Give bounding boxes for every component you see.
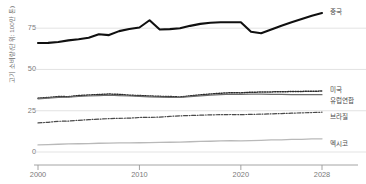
x-tick-label-2020: 2020 (233, 170, 249, 179)
series-line-4 (38, 139, 322, 145)
x-tick-label-2000: 2000 (30, 170, 46, 179)
series-line-3 (38, 112, 322, 123)
line-chart: 고기 소비량(단위: 100만 톤) 7550250 2000201020202… (0, 0, 366, 184)
plot-area (0, 0, 366, 184)
legend-item-0[interactable]: 중국 (330, 6, 342, 16)
legend-item-2[interactable]: 유럽연합 (330, 95, 354, 105)
legend-item-4[interactable]: 멕시코 (330, 138, 348, 148)
x-tick-label-2010: 2010 (131, 170, 147, 179)
x-tick-label-2028: 2028 (314, 170, 330, 179)
legend-item-3[interactable]: 브라질 (330, 111, 348, 121)
legend-item-1[interactable]: 미국 (330, 84, 342, 94)
